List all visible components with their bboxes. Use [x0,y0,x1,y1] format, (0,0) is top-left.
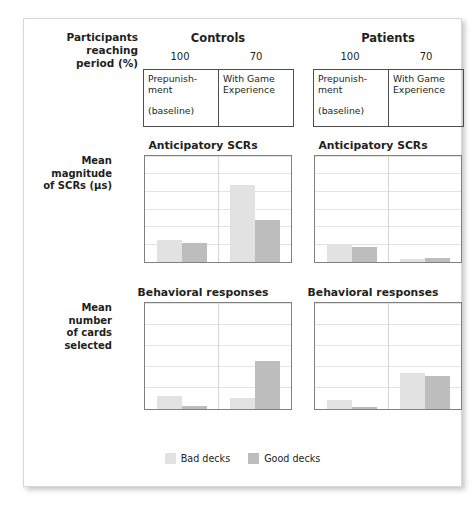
percent-row-patients: 100 70 [312,51,464,62]
condition-line-2: ment [148,84,214,95]
participants-label-line-2: reaching [30,44,138,57]
bar-bad-decks [157,240,182,262]
plot-frame: 0510152025 [314,302,462,410]
group-divider [388,303,389,409]
condition-line-2: Experience [393,84,459,95]
condition-cell-controls-game-experience: With Game Experience [218,70,293,126]
bar-good-decks [255,361,280,409]
bar-good-decks [425,376,450,409]
participants-reaching-period-label: Participants reaching period (%) [30,31,138,70]
participants-label-line-3: period (%) [30,57,138,70]
figure-page: Participants reaching period (%) Control… [0,0,476,506]
percent-patients-baseline: 100 [312,51,388,62]
participants-label-line-1: Participants [30,31,138,44]
chart-controls-anticipatory-scrs: Anticipatory SCRs 0.00.20.40.60.81.01.2 [112,139,294,269]
axis-caption-line: magnitude [30,168,112,181]
chart-controls-behavioral-responses: Behavioral responses 0510152025 [112,286,294,416]
percent-patients-experience: 70 [388,51,464,62]
group-title-controls: Controls [142,31,294,45]
bar-good-decks [425,258,450,262]
axis-caption-line: number [30,315,112,328]
bar-bad-decks [400,259,425,262]
legend-label-good-decks: Good decks [264,453,320,464]
legend-item-bad-decks: Bad decks [165,453,230,464]
chart-title: Anticipatory SCRs [282,139,464,152]
axis-caption-behavioral: Mean number of cards selected [30,302,112,352]
axis-caption-line: selected [30,340,112,353]
group-title-patients: Patients [312,31,464,45]
bar-bad-decks [327,244,352,262]
condition-box-controls: Prepunish- ment (baseline) With Game Exp… [143,69,294,127]
condition-sub: (baseline) [318,105,384,116]
legend-label-bad-decks: Bad decks [181,453,230,464]
condition-line-2: Experience [223,84,289,95]
legend: Bad decks Good decks [24,453,461,464]
chart-title: Behavioral responses [112,286,294,299]
legend-swatch-good-decks [248,453,259,464]
condition-sub: (baseline) [148,105,214,116]
bar-good-decks [182,243,207,262]
bar-bad-decks [327,400,352,409]
bar-good-decks [352,247,377,262]
condition-line-1: With Game [393,73,459,84]
bar-bad-decks [157,396,182,409]
percent-row-controls: 100 70 [142,51,294,62]
plot-frame: 0510152025 [144,302,292,410]
legend-item-good-decks: Good decks [248,453,320,464]
condition-line-1: Prepunish- [318,73,384,84]
legend-swatch-bad-decks [165,453,176,464]
condition-cell-patients-game-experience: With Game Experience [388,70,463,126]
condition-line-2: ment [318,84,384,95]
chart-title: Behavioral responses [282,286,464,299]
plot-frame: 0.00.20.40.60.81.01.2 [144,155,292,263]
axis-caption-line: Mean [30,302,112,315]
axis-caption-line: of cards [30,327,112,340]
bar-good-decks [255,220,280,262]
chart-title: Anticipatory SCRs [112,139,294,152]
bar-good-decks [352,407,377,409]
chart-patients-behavioral-responses: Behavioral responses 0510152025 [282,286,464,416]
condition-cell-controls-prepunishment: Prepunish- ment (baseline) [144,70,218,126]
percent-controls-experience: 70 [218,51,294,62]
figure-card: Participants reaching period (%) Control… [23,18,462,487]
condition-line-1: Prepunish- [148,73,214,84]
group-divider [388,156,389,262]
bar-good-decks [182,406,207,409]
condition-line-1: With Game [223,73,289,84]
percent-controls-baseline: 100 [142,51,218,62]
axis-caption-line: Mean [30,155,112,168]
condition-box-patients: Prepunish- ment (baseline) With Game Exp… [313,69,464,127]
condition-cell-patients-prepunishment: Prepunish- ment (baseline) [314,70,388,126]
axis-caption-scr: Mean magnitude of SCRs (µs) [30,155,112,193]
chart-patients-anticipatory-scrs: Anticipatory SCRs 0.00.20.40.60.81.01.2 [282,139,464,269]
plot-frame: 0.00.20.40.60.81.01.2 [314,155,462,263]
axis-caption-line: of SCRs (µs) [30,180,112,193]
group-divider [218,156,219,262]
bar-bad-decks [400,373,425,409]
bar-bad-decks [230,398,255,409]
bar-bad-decks [230,185,255,262]
group-divider [218,303,219,409]
